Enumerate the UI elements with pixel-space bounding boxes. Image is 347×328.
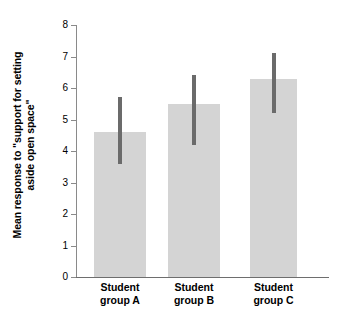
y-axis-tick-label: 4 xyxy=(62,144,68,157)
x-axis-label: Studentgroup C xyxy=(229,281,319,307)
x-axis-label-line: Student xyxy=(229,281,319,294)
y-axis-tick: 4 xyxy=(71,151,76,152)
plot-area: 012345678 xyxy=(76,25,328,277)
y-axis-tick: 1 xyxy=(71,246,76,247)
y-axis-tick-label: 5 xyxy=(62,113,68,126)
y-axis-title-line-1: Mean response to "support for setting xyxy=(11,52,24,239)
bar-chart: Mean response to "support for setting as… xyxy=(0,0,347,328)
x-axis-label-line: group C xyxy=(229,294,319,307)
x-axis-label: Studentgroup B xyxy=(149,281,239,307)
x-axis-label-line: group B xyxy=(149,294,239,307)
error-bar xyxy=(118,97,122,163)
y-axis-tick: 2 xyxy=(71,214,76,215)
y-axis-tick-label: 7 xyxy=(62,50,68,63)
y-axis-tick: 5 xyxy=(71,120,76,121)
y-axis-tick: 3 xyxy=(71,183,76,184)
y-axis-tick: 8 xyxy=(71,25,76,26)
error-bar xyxy=(272,53,276,113)
x-axis-line xyxy=(75,277,329,278)
y-axis-line xyxy=(76,25,77,277)
error-bar xyxy=(192,75,196,144)
y-axis-tick-label: 0 xyxy=(62,270,68,283)
y-axis-tick-label: 1 xyxy=(62,239,68,252)
y-axis-title: Mean response to "support for setting as… xyxy=(0,0,48,290)
y-axis-tick: 0 xyxy=(71,277,76,278)
y-axis-title-line-2: aside open space" xyxy=(24,52,37,239)
y-axis-tick-label: 6 xyxy=(62,81,68,94)
x-axis-labels: Studentgroup AStudentgroup BStudentgroup… xyxy=(76,281,328,323)
y-axis-tick-label: 3 xyxy=(62,176,68,189)
y-axis-tick-label: 8 xyxy=(62,18,68,31)
y-axis-tick: 7 xyxy=(71,57,76,58)
x-axis-label-line: Student xyxy=(149,281,239,294)
y-axis-tick-label: 2 xyxy=(62,207,68,220)
y-axis-tick: 6 xyxy=(71,88,76,89)
